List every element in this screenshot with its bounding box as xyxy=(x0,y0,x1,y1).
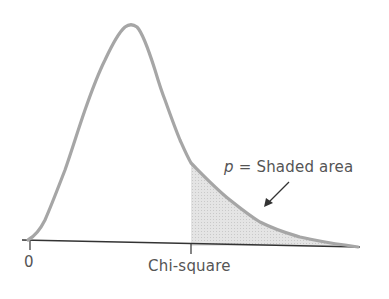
x-axis-label: Chi-square xyxy=(148,257,231,275)
arrow-icon xyxy=(264,182,289,207)
shaded-area-annotation: p = Shaded area xyxy=(224,158,353,176)
chi-square-chart xyxy=(0,0,389,299)
p-definition: = Shaded area xyxy=(234,158,354,176)
p-variable: p xyxy=(224,158,234,176)
origin-tick-label: 0 xyxy=(24,253,34,271)
